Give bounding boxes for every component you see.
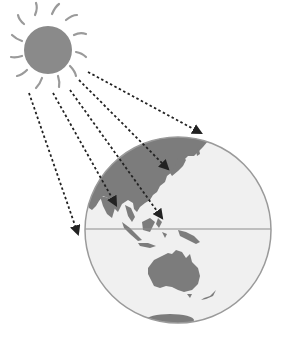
- sun-body: [24, 26, 72, 74]
- earth-globe: Earth Eq: [85, 136, 271, 326]
- ray-arrow-1: [29, 93, 78, 234]
- sun-icon: Sun: [11, 3, 86, 88]
- sunlight-earth-diagram: Sun Earth: [0, 0, 290, 345]
- ray-arrow-5: [88, 72, 201, 133]
